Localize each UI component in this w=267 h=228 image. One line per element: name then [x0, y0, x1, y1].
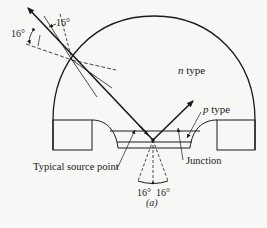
angle-left-tick [38, 35, 40, 46]
angle-top-label: 16° [56, 17, 70, 28]
p-type-well [92, 120, 217, 148]
source-point-label: Typical source point [33, 161, 119, 172]
led-dome-diagram: 16° 16° n type p type Typical source poi… [0, 0, 267, 228]
surface-cone-lines [26, 14, 116, 97]
source-point-pointer [117, 130, 135, 169]
angle-left-label: 16° [11, 28, 25, 39]
bottom-angle-center-dot [152, 182, 154, 184]
n-type-label: n type [178, 64, 205, 76]
right-base-block [217, 120, 255, 150]
angle-left-arc [29, 32, 32, 44]
bottom-cone-lines [138, 140, 168, 183]
junction-label: Junction [186, 155, 222, 166]
left-base-block [53, 120, 92, 150]
junction-pointer [178, 128, 183, 160]
reflected-ray [153, 101, 193, 140]
figure-caption: (a) [146, 197, 158, 209]
angle-bottom-right-label: 16° [156, 187, 170, 198]
p-type-label: p type [202, 103, 230, 115]
dome-outline [53, 16, 255, 150]
